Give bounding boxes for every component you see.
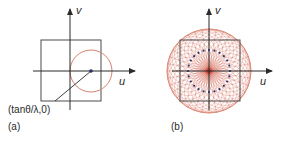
- u-axis-label-b: u: [260, 75, 266, 87]
- panel-label-a: (a): [8, 121, 20, 132]
- v-axis-label-b: v: [215, 4, 221, 16]
- panel-label-b: (b): [171, 121, 183, 132]
- leader-line: [55, 71, 91, 101]
- panel-a: [33, 9, 135, 110]
- u-axis-label-a: u: [119, 75, 125, 87]
- point-label: (tanθ/λ,0): [8, 104, 50, 115]
- v-axis-label-a: v: [76, 4, 82, 16]
- diagram-canvas: [0, 0, 284, 144]
- center-point: [89, 69, 93, 73]
- panel-b: [167, 9, 272, 113]
